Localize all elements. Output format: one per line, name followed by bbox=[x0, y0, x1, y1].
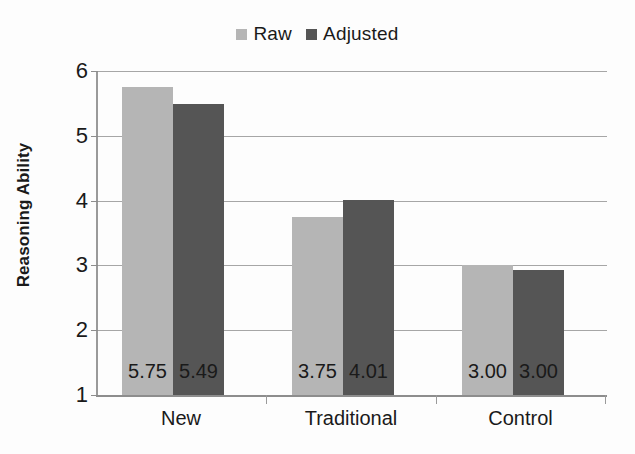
x-axis-line bbox=[96, 395, 607, 397]
legend-label-raw: Raw bbox=[253, 24, 292, 43]
bar-value-adjusted-traditional: 4.01 bbox=[343, 361, 394, 381]
category-separator-2 bbox=[436, 395, 437, 404]
category-label-new: New bbox=[96, 404, 266, 432]
chart-legend: Raw Adjusted bbox=[0, 20, 635, 46]
legend-entry-raw: Raw bbox=[236, 24, 292, 43]
bar-value-raw-new: 5.75 bbox=[122, 361, 173, 381]
bar-value-adjusted-new: 5.49 bbox=[173, 361, 224, 381]
y-tick-label-3: 3 bbox=[76, 254, 88, 276]
bar-adjusted-new[interactable]: 5.49 bbox=[173, 104, 224, 395]
y-tick-label-2: 2 bbox=[76, 319, 88, 341]
bars-layer: 5.75 5.49 3.75 4.01 3.00 3.00 bbox=[96, 71, 605, 395]
bar-adjusted-traditional[interactable]: 4.01 bbox=[343, 200, 394, 395]
bar-adjusted-control[interactable]: 3.00 bbox=[513, 270, 564, 395]
category-label-traditional: Traditional bbox=[266, 404, 436, 432]
y-axis-title-text: Reasoning Ability bbox=[14, 143, 34, 288]
bar-raw-control[interactable]: 3.00 bbox=[462, 265, 513, 395]
bar-raw-traditional[interactable]: 3.75 bbox=[292, 217, 343, 395]
category-separator-1 bbox=[266, 395, 267, 404]
legend-swatch-adjusted bbox=[306, 29, 317, 40]
bar-raw-new[interactable]: 5.75 bbox=[122, 87, 173, 395]
category-label-control: Control bbox=[436, 404, 605, 432]
legend-label-adjusted: Adjusted bbox=[323, 24, 399, 43]
legend-swatch-raw bbox=[236, 29, 247, 40]
category-separator-3 bbox=[605, 395, 606, 404]
legend-entry-adjusted: Adjusted bbox=[306, 24, 399, 43]
x-axis-category-labels: New Traditional Control bbox=[96, 404, 605, 438]
y-tick-label-1: 1 bbox=[76, 384, 88, 406]
bar-chart: Raw Adjusted Reasoning Ability 6 5 4 bbox=[0, 0, 635, 454]
y-tick-label-6: 6 bbox=[76, 60, 88, 82]
y-tick-label-5: 5 bbox=[76, 125, 88, 147]
y-axis-title: Reasoning Ability bbox=[0, 0, 56, 454]
y-tick-label-4: 4 bbox=[76, 190, 88, 212]
bar-value-raw-control: 3.00 bbox=[462, 361, 513, 381]
bar-value-raw-traditional: 3.75 bbox=[292, 361, 343, 381]
bar-value-adjusted-control: 3.00 bbox=[513, 361, 564, 381]
